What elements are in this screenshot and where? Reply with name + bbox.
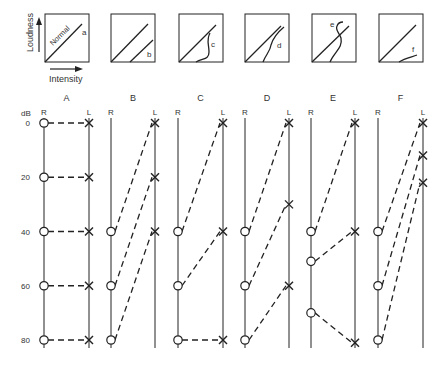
left-ear-label: L [153, 108, 158, 117]
column-e: ERL [307, 93, 359, 348]
y-axis-ticks: 020406080 [21, 119, 30, 345]
panel-label-b: b [147, 50, 152, 59]
loudness-balance-figure: Loudness Intensity Normal a b [0, 0, 445, 366]
column-f: FRL [374, 93, 427, 348]
y-axis-label-loudness: Loudness [25, 12, 35, 52]
x-axis-label-intensity: Intensity [49, 74, 83, 84]
ladder-columns: ARLBRLCRLDRLERLFRL [40, 93, 427, 348]
panel-f: f [379, 14, 423, 62]
panel-c: c [179, 14, 223, 62]
balance-line [182, 232, 220, 286]
left-ear-label: L [421, 108, 426, 117]
y-tick-label: 40 [21, 228, 30, 237]
right-ear-circle-icon [107, 336, 115, 344]
left-ear-label: L [87, 108, 92, 117]
right-ear-label: R [175, 108, 181, 117]
balance-line [115, 232, 152, 341]
right-ear-label: R [375, 108, 381, 117]
column-c: CRL [174, 93, 227, 348]
right-ear-label: R [308, 108, 314, 117]
right-ear-circle-icon [374, 282, 382, 290]
panel-label-a: a [82, 28, 87, 37]
right-ear-circle-icon [40, 336, 48, 344]
arrow-up-icon [36, 17, 42, 52]
right-ear-circle-icon [374, 227, 382, 235]
right-ear-label: R [41, 108, 47, 117]
right-ear-label: R [242, 108, 248, 117]
balance-line [315, 313, 352, 343]
right-ear-circle-icon [307, 309, 315, 317]
right-ear-circle-icon [40, 119, 48, 127]
y-tick-label: 0 [26, 119, 31, 128]
column-label: F [398, 93, 404, 103]
balance-line [249, 286, 286, 340]
ladder-diagram: dB 020406080 ARLBRLCRLDRLERLFRL [21, 93, 427, 348]
column-label: B [130, 93, 136, 103]
top-panels: Loudness Intensity Normal a b [25, 12, 423, 84]
y-tick-label: 80 [21, 336, 30, 345]
balance-line [249, 123, 286, 232]
panel-a: Normal a [45, 14, 89, 62]
right-ear-circle-icon [307, 257, 315, 265]
panel-label-d: d [277, 41, 281, 50]
left-ear-label: L [221, 108, 226, 117]
right-ear-circle-icon [241, 282, 249, 290]
right-ear-circle-icon [174, 336, 182, 344]
column-label: C [197, 93, 204, 103]
left-ear-label: L [287, 108, 292, 117]
y-tick-label: 60 [21, 282, 30, 291]
right-ear-circle-icon [241, 336, 249, 344]
y-tick-label: 20 [21, 173, 30, 182]
y-unit-label: dB [21, 109, 31, 118]
right-ear-circle-icon [40, 227, 48, 235]
right-ear-circle-icon [174, 227, 182, 235]
column-label: E [330, 93, 336, 103]
right-ear-circle-icon [40, 173, 48, 181]
column-label: D [264, 93, 271, 103]
balance-line [382, 156, 420, 286]
balance-line [382, 183, 420, 340]
arrow-right-icon [50, 66, 83, 72]
panel-label-e: e [330, 20, 335, 29]
normal-label: Normal [48, 24, 72, 48]
balance-line [182, 123, 220, 232]
panel-d: d [245, 14, 289, 62]
right-ear-circle-icon [374, 336, 382, 344]
panel-b: b [111, 14, 155, 62]
balance-line [115, 177, 152, 286]
panel-e: e [312, 14, 356, 62]
right-ear-label: R [108, 108, 114, 117]
panel-label-c: c [211, 40, 215, 49]
right-ear-circle-icon [107, 282, 115, 290]
column-a: ARL [40, 93, 93, 348]
panel-label-f: f [412, 45, 415, 54]
balance-line [315, 123, 352, 232]
right-ear-circle-icon [241, 227, 249, 235]
right-ear-circle-icon [40, 282, 48, 290]
balance-line [115, 123, 152, 232]
column-label: A [63, 93, 69, 103]
left-ear-label: L [353, 108, 358, 117]
column-d: DRL [241, 93, 293, 348]
right-ear-circle-icon [174, 282, 182, 290]
column-b: BRL [107, 93, 159, 348]
right-ear-circle-icon [107, 227, 115, 235]
balance-line [315, 232, 352, 262]
right-ear-circle-icon [307, 227, 315, 235]
